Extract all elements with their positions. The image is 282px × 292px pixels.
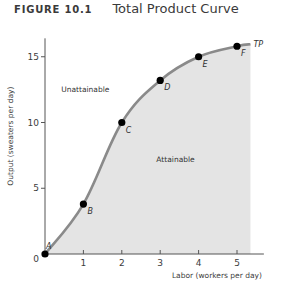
- x-tick-label: 1: [81, 258, 87, 268]
- x-axis-title: Labor (workers per day): [172, 271, 262, 280]
- y-axis-title: Output (sweaters per day): [6, 87, 15, 186]
- origin-label: 0: [33, 254, 39, 264]
- y-tick-label: 5: [33, 183, 39, 193]
- x-tick-label: 5: [234, 258, 240, 268]
- point-label-c: C: [126, 126, 132, 135]
- data-point-b: [80, 200, 87, 207]
- point-label-d: D: [164, 83, 170, 92]
- curve-label-tp: TP: [253, 40, 263, 49]
- data-point-a: [41, 250, 48, 257]
- point-label-f: F: [241, 49, 246, 58]
- x-tick-label: 4: [196, 258, 202, 268]
- x-tick-label: 3: [157, 258, 163, 268]
- attainable-region: [45, 44, 250, 254]
- point-label-b: B: [87, 207, 93, 216]
- data-point-c: [118, 119, 125, 126]
- y-tick-label: 10: [28, 118, 40, 128]
- data-point-f: [233, 43, 240, 50]
- x-tick-label: 2: [119, 258, 125, 268]
- attainable-fill: [45, 44, 250, 254]
- data-point-e: [195, 53, 202, 60]
- region-label-attainable: Attainable: [156, 155, 195, 164]
- point-label-a: A: [45, 242, 51, 251]
- region-label-unattainable: Unattainable: [61, 85, 110, 94]
- y-tick-label: 15: [28, 52, 39, 62]
- total-product-chart: 12345510150Labor (workers per day)Output…: [0, 0, 282, 292]
- data-point-d: [157, 77, 164, 84]
